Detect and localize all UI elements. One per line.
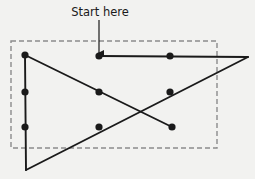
dot-center-left-lower[interactable] bbox=[95, 123, 102, 130]
segment-left-vertical bbox=[25, 55, 26, 170]
dot-center-right-lower[interactable] bbox=[168, 123, 175, 130]
start-here-annotation: Start here bbox=[71, 5, 129, 53]
dots-group bbox=[21, 51, 175, 130]
segment-right-descending bbox=[26, 57, 248, 170]
line-segments-group bbox=[25, 55, 248, 170]
dot-connect-diagram: Start here bbox=[0, 0, 255, 179]
dot-start[interactable] bbox=[95, 52, 102, 59]
dot-center-right-upper[interactable] bbox=[166, 88, 173, 95]
dot-top-right-inner[interactable] bbox=[166, 52, 173, 59]
figure-container: Start here bbox=[0, 0, 255, 179]
dot-center-left-upper[interactable] bbox=[95, 88, 102, 95]
dot-left-lower[interactable] bbox=[21, 123, 28, 130]
dot-top-left[interactable] bbox=[21, 51, 28, 58]
dot-left-middle[interactable] bbox=[21, 88, 28, 95]
start-here-label: Start here bbox=[71, 5, 129, 19]
